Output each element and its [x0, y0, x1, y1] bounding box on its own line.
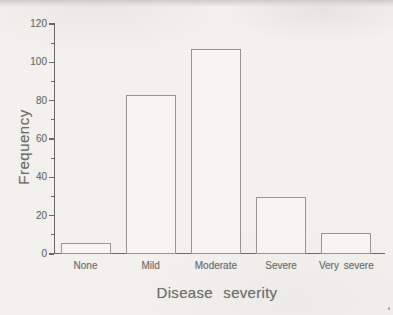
y-major-tick — [49, 62, 54, 63]
bar-mild — [126, 95, 176, 254]
bar-severe — [256, 197, 306, 255]
y-major-tick — [49, 138, 54, 139]
y-tick-label: 80 — [10, 95, 47, 107]
scan-artifact-dot — [388, 307, 390, 310]
y-minor-tick — [51, 234, 54, 235]
x-axis-title: Disease severity — [157, 284, 278, 301]
y-minor-tick — [51, 43, 54, 44]
y-major-tick — [49, 100, 54, 101]
y-minor-tick — [51, 119, 54, 120]
y-tick-label: 60 — [10, 133, 47, 145]
y-major-tick — [49, 177, 54, 178]
x-category-label: Very severe — [301, 259, 391, 272]
bar-very-severe — [321, 233, 371, 254]
y-tick-label: 20 — [10, 210, 47, 222]
y-axis-line — [54, 23, 55, 254]
y-tick-label: 100 — [10, 56, 47, 68]
y-minor-tick — [51, 158, 54, 159]
scanned-bar-chart-figure: Frequency Disease severity 0204060801001… — [0, 0, 393, 315]
y-minor-tick — [51, 196, 54, 197]
bar-none — [61, 243, 111, 255]
y-major-tick — [49, 23, 54, 24]
y-major-tick — [49, 253, 54, 254]
y-tick-label: 40 — [10, 171, 47, 183]
y-tick-label: 120 — [10, 18, 47, 30]
y-minor-tick — [51, 81, 54, 82]
bar-moderate — [191, 49, 241, 254]
y-major-tick — [49, 215, 54, 216]
